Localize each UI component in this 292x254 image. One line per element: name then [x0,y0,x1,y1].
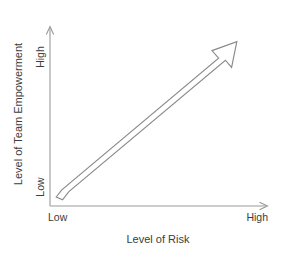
diagram-canvas: High Low Level of Team Empowerment Low H… [0,0,292,254]
y-axis-title: Level of Team Empowerment [12,43,24,185]
x-axis-low-label: Low [48,211,68,223]
risk-empowerment-diagram: High Low Level of Team Empowerment Low H… [0,0,292,254]
y-axis-high-label: High [34,46,46,68]
x-axis-high-label: High [246,211,268,223]
x-axis-title: Level of Risk [127,233,190,245]
y-axis-low-label: Low [34,177,46,197]
